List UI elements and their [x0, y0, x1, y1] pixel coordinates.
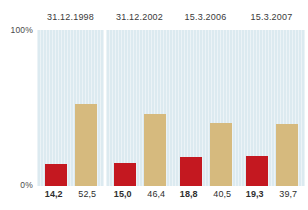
value-red-0: 14,2 [37, 189, 71, 199]
bar-beige-0 [75, 104, 97, 186]
chart-panel-2: 15.3.2006 [172, 30, 239, 186]
value-labels-0: 14,2 52,5 [37, 189, 104, 205]
bar-beige-1 [144, 114, 166, 186]
panel-title-0: 31.12.1998 [37, 12, 104, 22]
bar-red-2 [180, 157, 202, 186]
value-beige-3: 39,7 [272, 189, 306, 199]
axis-tick-0: 0% [0, 180, 33, 190]
value-beige-0: 52,5 [71, 189, 105, 199]
bar-beige-3 [276, 124, 298, 186]
bar-red-3 [246, 156, 268, 186]
bar-red-1 [114, 163, 136, 186]
bar-beige-2 [210, 123, 232, 186]
panel-title-1: 31.12.2002 [106, 12, 173, 22]
value-red-2: 18,8 [172, 189, 206, 199]
value-beige-2: 40,5 [206, 189, 240, 199]
bar-red-0 [45, 164, 67, 186]
chart-panel-1: 31.12.2002 [106, 30, 173, 186]
value-red-3: 19,3 [238, 189, 272, 199]
chart-panel-0: 31.12.1998 [37, 30, 104, 186]
bar-chart: 100% 0% 31.12.1998 14,2 52,5 31.12.2002 … [0, 0, 308, 210]
value-labels-2: 18,8 40,5 [172, 189, 239, 205]
value-labels-1: 15,0 46,4 [106, 189, 173, 205]
value-red-1: 15,0 [106, 189, 140, 199]
value-beige-1: 46,4 [140, 189, 174, 199]
panel-title-3: 15.3.2007 [238, 12, 305, 22]
chart-panel-3: 15.3.2007 [238, 30, 305, 186]
axis-tick-100: 100% [0, 25, 33, 35]
panel-title-2: 15.3.2006 [172, 12, 239, 22]
value-labels-3: 19,3 39,7 [238, 189, 305, 205]
